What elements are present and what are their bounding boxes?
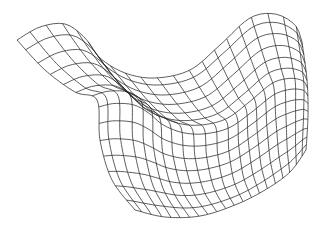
mesh-line-u: [77, 30, 171, 217]
mesh-line-u: [46, 25, 151, 214]
saddle-surface-wireframe: [0, 0, 319, 228]
mesh-line-u: [239, 26, 275, 183]
mesh-line-v: [126, 145, 306, 208]
mesh-line-v: [17, 13, 302, 78]
mesh-line-v: [108, 128, 307, 183]
mesh-line-u: [98, 56, 190, 218]
mesh-line-u: [88, 42, 180, 218]
mesh-line-v: [38, 34, 304, 95]
mesh-line-u: [251, 17, 283, 178]
mesh-line-v: [135, 150, 306, 218]
mesh-line-v: [99, 100, 308, 147]
mesh-grid: [17, 13, 308, 217]
mesh-line-u: [17, 40, 135, 210]
mesh-line-u: [63, 24, 162, 217]
mesh-line-u: [30, 32, 142, 212]
